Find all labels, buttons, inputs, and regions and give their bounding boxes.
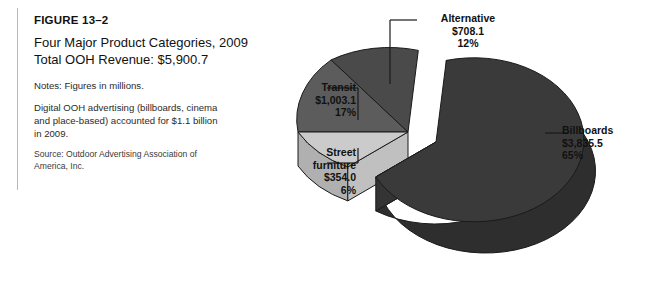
pie-chart-figure: Alternative $708.1 12% Transit $1,003.1 … xyxy=(250,0,668,288)
callout-transit-value: $1,003.1 xyxy=(260,94,356,107)
figure-source-line-1: Source: Outdoor Advertising Association … xyxy=(34,149,266,161)
callout-billboards-value: $3,835.5 xyxy=(562,137,666,150)
callout-billboards-name: Billboards xyxy=(562,124,666,137)
figure-source-line-2: America, Inc. xyxy=(34,161,266,173)
callout-billboards: Billboards $3,835.5 65% xyxy=(562,124,666,162)
callout-transit-name: Transit xyxy=(260,81,356,94)
figure-number: FIGURE 13–2 xyxy=(34,14,266,26)
callout-street-furniture-percent: 6% xyxy=(256,184,356,197)
callout-alternative-value: $708.1 xyxy=(420,25,516,38)
figure-source: Source: Outdoor Advertising Association … xyxy=(34,149,266,172)
callout-street-furniture-name-line-2: furniture xyxy=(256,159,356,172)
figure-note-line-1: Digital OOH advertising (billboards, cin… xyxy=(34,101,266,114)
callout-street-furniture-name-line-1: Street xyxy=(256,146,356,159)
callout-street-furniture: Street furniture $354.0 6% xyxy=(256,146,356,196)
callout-transit: Transit $1,003.1 17% xyxy=(260,81,356,119)
figure-note-paragraph: Digital OOH advertising (billboards, cin… xyxy=(34,101,266,140)
figure-title: Four Major Product Categories, 2009 Tota… xyxy=(34,35,266,68)
callout-street-furniture-value: $354.0 xyxy=(256,171,356,184)
figure-title-line-1: Four Major Product Categories, 2009 xyxy=(34,35,266,52)
callout-transit-percent: 17% xyxy=(260,106,356,119)
figure-caption-block: FIGURE 13–2 Four Major Product Categorie… xyxy=(34,14,266,181)
callout-alternative-percent: 12% xyxy=(420,37,516,50)
figure-notes-label: Notes: Figures in millions. xyxy=(34,79,266,92)
figure-title-line-2: Total OOH Revenue: $5,900.7 xyxy=(34,52,266,69)
callout-alternative: Alternative $708.1 12% xyxy=(420,12,516,50)
callout-billboards-percent: 65% xyxy=(562,149,666,162)
figure-note-line-3: in 2009. xyxy=(34,127,266,140)
callout-alternative-name: Alternative xyxy=(420,12,516,25)
figure-note-line-2: and place-based) accounted for $1.1 bill… xyxy=(34,114,266,127)
left-margin-rule xyxy=(17,8,18,190)
